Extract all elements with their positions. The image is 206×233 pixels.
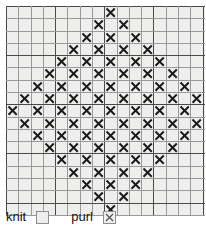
- stitch-cell-knit: [166, 166, 178, 178]
- stitch-cell-purl: [117, 43, 129, 55]
- stitch-cell-knit: [7, 68, 19, 80]
- stitch-cell-purl: [166, 142, 178, 154]
- stitch-cell-purl: [105, 80, 117, 92]
- x-mark-icon: [179, 105, 190, 116]
- stitch-cell-knit: [56, 142, 68, 154]
- stitch-cell-knit: [31, 117, 43, 129]
- stitch-grid-table: [6, 6, 205, 216]
- stitch-cell-purl: [80, 154, 92, 166]
- stitch-cell-purl: [117, 92, 129, 104]
- stitch-cell-purl: [80, 56, 92, 68]
- knitting-chart-grid: [6, 6, 198, 198]
- legend-label-knit: knit: [6, 210, 26, 224]
- x-mark-icon: [105, 154, 116, 165]
- x-mark-icon: [44, 93, 55, 104]
- stitch-cell-purl: [92, 166, 104, 178]
- stitch-cell-purl: [154, 80, 166, 92]
- stitch-cell-knit: [105, 142, 117, 154]
- stitch-cell-purl: [203, 105, 205, 117]
- stitch-cell-knit: [31, 56, 43, 68]
- stitch-cell-knit: [56, 7, 68, 19]
- x-mark-icon: [118, 68, 129, 79]
- x-mark-icon: [81, 56, 92, 67]
- stitch-cell-knit: [7, 166, 19, 178]
- stitch-cell-knit: [43, 154, 55, 166]
- stitch-cell-purl: [154, 56, 166, 68]
- stitch-cell-knit: [105, 43, 117, 55]
- stitch-cell-knit: [68, 19, 80, 31]
- x-mark-icon: [105, 130, 116, 141]
- x-mark-icon: [130, 56, 141, 67]
- stitch-cell-knit: [19, 154, 31, 166]
- stitch-cell-purl: [80, 129, 92, 141]
- x-mark-icon: [68, 118, 79, 129]
- stitch-cell-knit: [178, 43, 190, 55]
- stitch-cell-knit: [92, 154, 104, 166]
- stitch-cell-knit: [166, 56, 178, 68]
- x-mark-icon: [142, 93, 153, 104]
- stitch-cell-purl: [105, 154, 117, 166]
- x-mark-icon: [142, 44, 153, 55]
- stitch-cell-knit: [68, 80, 80, 92]
- stitch-cell-knit: [105, 19, 117, 31]
- stitch-cell-knit: [129, 191, 141, 203]
- x-mark-icon: [167, 118, 178, 129]
- stitch-cell-knit: [142, 7, 154, 19]
- stitch-cell-knit: [117, 129, 129, 141]
- stitch-cell-purl: [80, 178, 92, 190]
- x-mark-icon: [118, 19, 129, 30]
- x-mark-icon: [93, 68, 104, 79]
- stitch-cell-purl: [154, 154, 166, 166]
- x-mark-icon: [68, 167, 79, 178]
- stitch-cell-purl: [43, 68, 55, 80]
- x-mark-icon: [68, 142, 79, 153]
- stitch-cell-purl: [117, 191, 129, 203]
- stitch-cell-purl: [56, 80, 68, 92]
- stitch-cell-purl: [129, 154, 141, 166]
- stitch-cell-knit: [129, 43, 141, 55]
- stitch-cell-knit: [166, 31, 178, 43]
- stitch-cell-knit: [92, 80, 104, 92]
- stitch-cell-knit: [154, 191, 166, 203]
- stitch-cell-knit: [178, 68, 190, 80]
- stitch-cell-knit: [129, 92, 141, 104]
- stitch-cell-knit: [68, 191, 80, 203]
- stitch-cell-purl: [117, 117, 129, 129]
- stitch-cell-knit: [203, 142, 205, 154]
- legend-swatch-purl: [103, 211, 116, 224]
- stitch-cell-purl: [105, 7, 117, 19]
- stitch-cell-knit: [56, 191, 68, 203]
- x-mark-icon: [191, 93, 202, 104]
- stitch-cell-knit: [191, 105, 203, 117]
- stitch-cell-knit: [142, 80, 154, 92]
- stitch-cell-knit: [203, 56, 205, 68]
- stitch-cell-knit: [31, 154, 43, 166]
- stitch-cell-knit: [142, 154, 154, 166]
- stitch-cell-purl: [92, 43, 104, 55]
- x-mark-icon: [68, 44, 79, 55]
- x-mark-icon: [93, 44, 104, 55]
- stitch-cell-purl: [68, 166, 80, 178]
- stitch-cell-knit: [178, 56, 190, 68]
- stitch-cell-knit: [19, 80, 31, 92]
- stitch-cell-knit: [129, 19, 141, 31]
- stitch-cell-knit: [191, 7, 203, 19]
- stitch-row: [7, 92, 206, 104]
- x-mark-icon: [81, 32, 92, 43]
- x-mark-icon: [32, 81, 43, 92]
- x-mark-icon: [105, 105, 116, 116]
- stitch-cell-purl: [31, 105, 43, 117]
- stitch-cell-knit: [43, 166, 55, 178]
- stitch-cell-knit: [80, 68, 92, 80]
- stitch-cell-knit: [68, 56, 80, 68]
- x-mark-icon: [93, 167, 104, 178]
- stitch-cell-knit: [68, 105, 80, 117]
- stitch-cell-knit: [19, 166, 31, 178]
- stitch-cell-knit: [7, 19, 19, 31]
- stitch-cell-knit: [7, 178, 19, 190]
- stitch-cell-purl: [142, 142, 154, 154]
- stitch-cell-knit: [43, 19, 55, 31]
- x-mark-icon: [81, 105, 92, 116]
- stitch-cell-purl: [68, 117, 80, 129]
- stitch-cell-knit: [117, 105, 129, 117]
